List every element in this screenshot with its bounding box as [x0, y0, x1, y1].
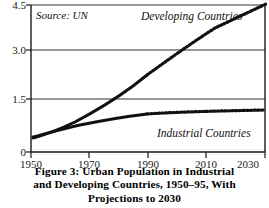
- y-tick-label-3-0: 3.0: [0, 45, 26, 56]
- chart-plot-area: 4.5 3.0 1.5 0 1950 1970 1990 2010 2030 S…: [0, 0, 269, 162]
- y-tick-label-4-5: 4.5: [0, 0, 26, 11]
- figure-caption: Figure 3: Urban Population in Industrial…: [0, 165, 269, 205]
- series-label-industrial-countries: Industrial Countries: [157, 127, 251, 139]
- y-tick-label-1-5: 1.5: [0, 94, 26, 105]
- y-axis-ticks: [26, 5, 31, 152]
- figure-caption-line-3: Projections to 2030: [0, 192, 269, 205]
- series-industrial-historical-line: [33, 114, 147, 137]
- series-label-developing-countries: Developing Countries: [141, 10, 242, 22]
- series-industrial-projected-line: [147, 110, 264, 114]
- figure-container: 4.5 3.0 1.5 0 1950 1970 1990 2010 2030 S…: [0, 0, 269, 208]
- figure-caption-line-1: Figure 3: Urban Population in Industrial: [0, 165, 269, 178]
- series-developing-countries: [33, 4, 266, 138]
- source-note: Source: UN: [36, 9, 88, 21]
- figure-caption-line-2: and Developing Countries, 1950–95, With: [0, 178, 269, 191]
- series-developing-historical-line: [33, 75, 147, 138]
- y-tick-label-0: 0: [0, 147, 26, 158]
